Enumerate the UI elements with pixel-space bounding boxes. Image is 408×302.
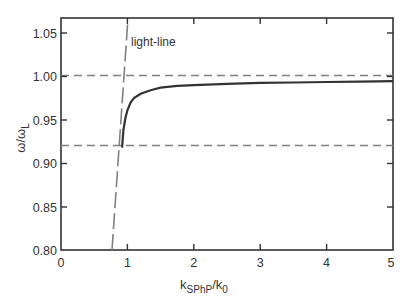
chart: 1.05 1.00 0.95 0.90 0.85 0.80 0 1 2 3 4 … xyxy=(0,0,408,302)
x-tick-label: 5 xyxy=(388,256,395,270)
y-tick-labels: 1.05 1.00 0.95 0.90 0.85 0.80 xyxy=(33,27,57,258)
x-tick-label: 2 xyxy=(190,256,197,270)
x-ticks-bottom xyxy=(127,244,326,250)
y-axis-label: ω/ωL xyxy=(13,123,31,153)
x-tick-label: 0 xyxy=(58,256,65,270)
y-tick-label: 0.85 xyxy=(33,201,57,215)
light-line xyxy=(112,18,128,250)
x-axis-label: kSPhP/k0 xyxy=(180,277,228,295)
x-tick-label: 4 xyxy=(323,256,330,270)
x-ticks-top xyxy=(127,18,326,24)
x-tick-label: 3 xyxy=(257,256,264,270)
y-ticks-left xyxy=(61,33,67,207)
y-tick-label: 0.95 xyxy=(33,114,57,128)
x-tick-label: 1 xyxy=(124,256,131,270)
plot-frame xyxy=(61,18,393,250)
sphp-dispersion-curve xyxy=(122,81,393,147)
y-tick-label: 0.80 xyxy=(33,244,57,258)
y-tick-label: 0.90 xyxy=(33,157,57,171)
y-tick-label: 1.05 xyxy=(33,27,57,41)
y-tick-label: 1.00 xyxy=(33,70,57,84)
x-tick-labels: 0 1 2 3 4 5 xyxy=(58,256,395,270)
light-line-annotation: light-line xyxy=(131,35,176,49)
y-ticks-right xyxy=(387,33,393,207)
